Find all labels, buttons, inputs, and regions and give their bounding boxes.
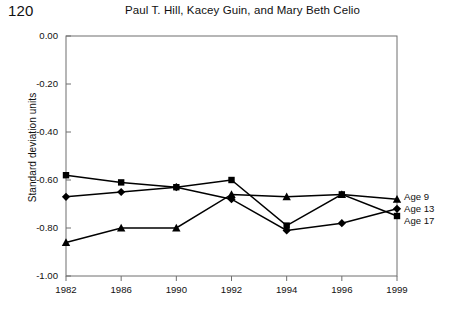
- y-tick-label: -0.20: [14, 78, 58, 89]
- data-point-square: [228, 177, 234, 183]
- x-tick-label: 1994: [265, 284, 309, 295]
- series-label-age-9: Age 9: [404, 191, 429, 202]
- x-tick-label: 1999: [375, 284, 419, 295]
- y-tick-label: 0.00: [14, 30, 58, 41]
- x-axis-ticks: [66, 276, 397, 281]
- x-tick-label: 1982: [44, 284, 88, 295]
- series-label-age-17: Age 17: [404, 215, 434, 226]
- y-tick-label: -0.40: [14, 126, 58, 137]
- plot-frame: [66, 36, 397, 276]
- series-label-age-13: Age 13: [404, 203, 434, 214]
- data-point-square: [63, 172, 69, 178]
- x-tick-label: 1986: [99, 284, 143, 295]
- x-tick-label: 1990: [154, 284, 198, 295]
- y-tick-label: -1.00: [14, 270, 58, 281]
- line-chart-figure: Standard deviation units 0.00-0.20-0.40-…: [0, 0, 451, 312]
- x-tick-label: 1996: [320, 284, 364, 295]
- y-tick-label: -0.80: [14, 222, 58, 233]
- y-tick-label: -0.60: [14, 174, 58, 185]
- data-point-square: [394, 213, 400, 219]
- x-tick-label: 1992: [210, 284, 254, 295]
- chart-plot-area: [0, 0, 451, 312]
- data-point-square: [118, 179, 124, 185]
